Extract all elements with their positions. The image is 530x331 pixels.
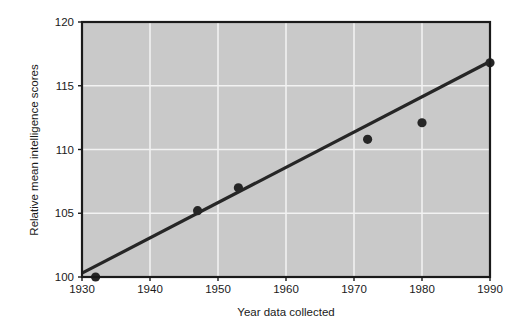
x-axis-tick-label: 1990	[477, 283, 503, 295]
x-axis-ticks-group: 1930194019501960197019801990	[69, 277, 503, 295]
figure-container: 1930194019501960197019801990 10010511011…	[0, 0, 530, 331]
x-axis-title: Year data collected	[237, 306, 334, 318]
y-axis-ticks-group: 100105110115120	[55, 16, 82, 283]
y-axis-title: Relative mean intelligence scores	[28, 64, 40, 236]
y-axis-tick-label: 105	[55, 207, 74, 219]
x-axis-tick-label: 1930	[69, 283, 95, 295]
data-point	[234, 183, 243, 192]
y-axis-tick-label: 110	[56, 144, 74, 156]
data-point	[193, 206, 202, 215]
x-axis-tick-label: 1980	[409, 283, 435, 295]
data-point	[363, 135, 372, 144]
x-axis-tick-label: 1950	[205, 283, 231, 295]
y-axis-tick-label: 115	[56, 80, 74, 92]
scatter-chart: 1930194019501960197019801990 10010511011…	[0, 0, 530, 331]
x-axis-tick-label: 1970	[341, 283, 367, 295]
y-axis-tick-label: 100	[55, 271, 74, 283]
data-point	[417, 118, 426, 127]
y-axis-tick-label: 120	[55, 16, 74, 28]
x-axis-tick-label: 1960	[273, 283, 299, 295]
x-axis-tick-label: 1940	[137, 283, 163, 295]
